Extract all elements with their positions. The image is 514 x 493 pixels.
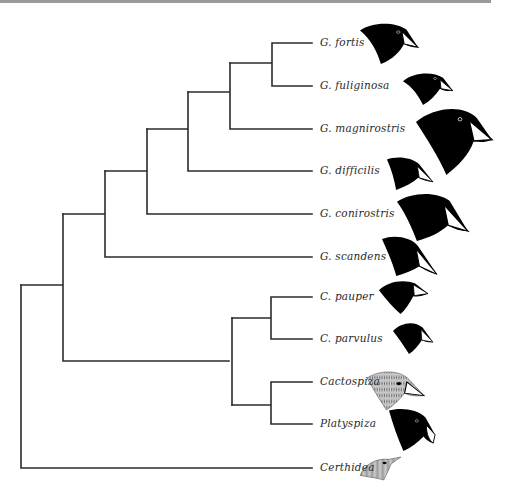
taxon-label: Cactospiza: [320, 375, 380, 387]
branch-geospiza-camarhynchus: [21, 214, 229, 361]
taxon-label: G. scandens: [320, 250, 386, 262]
branch-root-certhidea: [21, 285, 312, 468]
head-c-parvulus-icon: [393, 323, 433, 354]
branch-cactospiza-platyspiza: [232, 382, 312, 424]
taxon-label: G. conirostris: [320, 207, 395, 219]
taxon-label: C. pauper: [320, 290, 374, 302]
head-g-magnirostris-icon: [416, 109, 492, 175]
head-g-difficilis-icon: [387, 157, 433, 190]
head-g-conirostris-icon: [397, 194, 468, 241]
taxon-label: G. fuliginosa: [320, 79, 389, 91]
head-c-pauper-icon: [379, 281, 428, 314]
taxon-label: Certhidea: [320, 461, 375, 473]
phylogenetic-tree: [0, 0, 514, 493]
head-g-fuliginosa-icon: [403, 73, 453, 105]
branch-fortis-fuliginosa: [230, 43, 312, 86]
branch-pauper-parvulus: [232, 297, 312, 339]
taxon-label: G. difficilis: [320, 164, 380, 176]
taxon-label: G. fortis: [320, 36, 365, 48]
head-platyspiza-icon: [389, 409, 435, 451]
head-g-fortis-icon: [360, 24, 418, 64]
taxon-label: Platyspiza: [320, 417, 376, 429]
branch-magnirostris: [188, 63, 312, 129]
head-g-scandens-icon: [382, 237, 437, 276]
taxon-label: G. magnirostris: [320, 122, 405, 134]
taxon-label: C. parvulus: [320, 332, 383, 344]
